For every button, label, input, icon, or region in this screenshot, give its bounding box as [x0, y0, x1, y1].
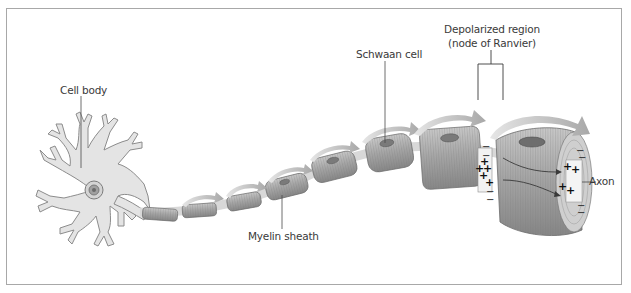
label-depolarized-region: Depolarized region (node of Ranvier) [440, 22, 544, 50]
label-cell-body: Cell body [60, 84, 107, 96]
label-axon: Axon [589, 175, 614, 187]
positive-charge: + [571, 163, 580, 176]
negative-charge: − [486, 194, 494, 205]
positive-charge: + [566, 184, 575, 197]
negative-charge: − [578, 152, 586, 163]
label-depolarized-region-line2: (node of Ranvier) [440, 36, 544, 50]
label-myelin-sheath: Myelin sheath [248, 230, 319, 242]
label-schwann-cell: Schwaan cell [356, 48, 422, 60]
depolarized-region-bracket [478, 50, 503, 100]
negative-charge: − [577, 207, 585, 218]
label-depolarized-region-line1: Depolarized region [440, 22, 544, 36]
cell-body [36, 112, 150, 246]
